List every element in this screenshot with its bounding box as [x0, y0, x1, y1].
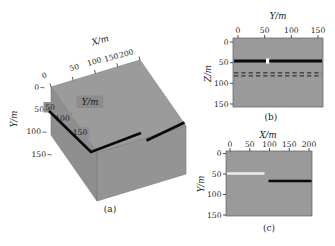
tick-label: 150	[282, 140, 297, 149]
top-axis-tick-marks	[238, 35, 318, 38]
tick-label: 0	[224, 38, 229, 47]
tick-label: 100	[214, 79, 229, 88]
tick-label: 150	[311, 26, 326, 35]
top-axis-label-c: X/m	[258, 130, 276, 140]
panel-b-caption: (b)	[265, 112, 278, 122]
tick-label: 50	[68, 62, 80, 73]
top-axis-c: 0 50 100 150 200 X/m	[228, 130, 317, 152]
tick-label: 150	[207, 211, 222, 220]
figure-canvas: 0 50 100 150 200 X/m 0 50 100 150 Y/m Y/…	[0, 0, 335, 246]
tick-label: 0	[34, 83, 39, 92]
plot-area-c	[226, 151, 312, 216]
tick-label: 50	[34, 105, 44, 114]
tick-label: 50	[245, 140, 255, 149]
tick-label: 50	[219, 58, 229, 67]
tick-label: 100	[27, 127, 42, 136]
panel-c-caption: (c)	[263, 223, 275, 233]
tick-label: 100	[86, 55, 103, 68]
y-axis-tick-marks	[41, 88, 52, 155]
tick-label: 100	[284, 26, 299, 35]
panel-b: 0 50 100 150 Y/m 0 50 100 150 Z/m (b)	[203, 11, 325, 122]
tick-label: 100	[207, 190, 222, 199]
left-axis-c: 0 50 100 150 Y/m	[196, 149, 226, 220]
white-break-dot	[266, 58, 269, 63]
tick-label: 50	[260, 26, 270, 35]
tick-label: 0	[228, 140, 233, 149]
panel-a: 0 50 100 150 200 X/m 0 50 100 150 Y/m Y/…	[9, 33, 186, 214]
top-axis-label-b: Y/m	[270, 11, 287, 21]
panel-c: 0 50 100 150 200 X/m 0 50 100 150 Y/m (c…	[196, 130, 316, 233]
tick-label: 0	[236, 26, 241, 35]
tick-label: 200	[118, 47, 135, 60]
tick-label: 150	[32, 150, 47, 159]
face-axis-label: Y/m	[82, 97, 99, 107]
left-axis-label-b: Z/m	[203, 65, 213, 83]
tick-label: 200	[302, 140, 317, 149]
tick-label: 150	[214, 100, 229, 109]
tick-label: 50	[212, 170, 222, 179]
left-axis-tick-marks	[223, 154, 226, 216]
tick-label: 0	[217, 149, 222, 158]
panel-a-caption: (a)	[104, 204, 116, 214]
left-axis-label-c: Y/m	[196, 176, 206, 193]
tick-label: 150	[103, 51, 120, 64]
figure-svg: 0 50 100 150 200 X/m 0 50 100 150 Y/m Y/…	[0, 0, 335, 246]
top-axis-b: 0 50 100 150 Y/m	[236, 11, 326, 38]
x-axis-label: X/m	[90, 33, 110, 48]
y-axis-label: Y/m	[9, 111, 19, 128]
tick-label: 0	[41, 71, 48, 81]
y-axis-a: 0 50 100 150 Y/m	[9, 83, 52, 159]
left-axis-tick-marks	[230, 42, 233, 104]
left-axis-b: 0 50 100 150 Z/m	[203, 38, 233, 109]
tick-label: 100	[262, 140, 277, 149]
